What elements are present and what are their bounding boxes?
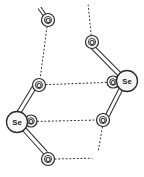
hbond-o-top-left-o-mid-left bbox=[40, 27, 47, 78]
atom-se-left[interactable] bbox=[7, 112, 28, 133]
atom-se-right[interactable] bbox=[117, 71, 138, 92]
atom-o-mid-right[interactable] bbox=[97, 114, 110, 127]
atom-o-top-left[interactable] bbox=[42, 14, 55, 27]
atom-o-mid-left[interactable] bbox=[33, 79, 46, 92]
atom-group bbox=[7, 14, 138, 166]
atom-o-top-right[interactable] bbox=[86, 36, 99, 49]
contact-o-mid-right-down bbox=[98, 127, 102, 150]
hbond-o-mid-left-o-right-bridge bbox=[46, 82, 107, 84]
contact-o-top-right-up bbox=[88, 5, 91, 35]
bond-se-left-o-bottom-left bbox=[22, 127, 47, 154]
bond-se-right-o-top-right bbox=[91, 46, 122, 77]
bond-se-right-o-mid-right bbox=[106, 88, 123, 117]
structure-canvas: O O Se O O O Se O O bbox=[0, 0, 144, 177]
chemical-structure-diagram: O O Se O O O Se O O bbox=[0, 0, 144, 177]
hbond-o-left-bridge-o-mid-right bbox=[37, 120, 96, 121]
contact-o-bottom-left-right bbox=[55, 158, 92, 159]
hydrogen-bond-group bbox=[37, 5, 106, 159]
atom-o-bottom-left[interactable] bbox=[42, 153, 55, 166]
